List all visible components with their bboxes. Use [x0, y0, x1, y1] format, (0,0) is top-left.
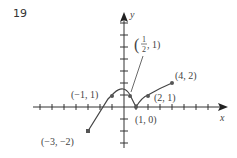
label-half-1: ( 1 2 , 1) [134, 35, 160, 54]
point-4-2 [170, 81, 174, 85]
x-axis [33, 104, 222, 110]
y-axis-label: y [129, 9, 135, 20]
leader-line [131, 56, 143, 92]
label-4-2: (4, 2) [175, 70, 197, 82]
svg-text:2: 2 [142, 45, 146, 54]
point-2-1 [146, 94, 150, 98]
svg-text:, 1): , 1) [147, 39, 160, 51]
point-neg3-neg2 [86, 129, 90, 133]
point-half-1 [128, 94, 132, 98]
label-neg3-neg2: (−3, −2) [41, 136, 74, 148]
svg-text:1: 1 [142, 35, 146, 44]
label-1-0: (1, 0) [135, 114, 157, 126]
svg-text:(: ( [134, 36, 139, 54]
y-axis [120, 20, 128, 148]
point-1-0 [134, 105, 138, 109]
x-axis-label: x [219, 112, 225, 123]
label-neg1-1: (−1, 1) [71, 89, 98, 101]
function-graph: y x (−3, −2) (−1, 1) ( 1 2 , 1) (1, 0) (… [0, 0, 237, 158]
point-neg1-1 [110, 94, 114, 98]
label-2-1: (2, 1) [154, 92, 176, 104]
